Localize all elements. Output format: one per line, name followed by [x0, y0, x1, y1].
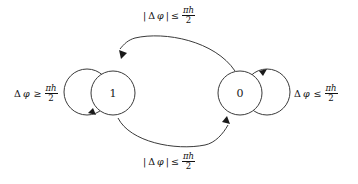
- state-node-1[interactable]: 1: [91, 71, 135, 115]
- fraction: πh 2: [182, 152, 195, 171]
- fraction-denominator: 2: [327, 94, 334, 103]
- state-0-label: 0: [237, 87, 244, 100]
- phi-symbol: φ: [303, 89, 310, 99]
- edge-1-to-0-arc: [118, 118, 228, 147]
- delta-symbol: Δ: [14, 89, 21, 99]
- edge-0-to-1-arc: [120, 36, 235, 71]
- self-loop-0-label: Δφ ≤ πh 2: [292, 84, 339, 103]
- state-1-label: 1: [110, 87, 117, 100]
- edge-1-to-0-label: |Δφ| ≤ πh 2: [143, 152, 196, 171]
- fraction-numerator: πh: [182, 6, 195, 15]
- self-loop-1-arrowhead: [88, 108, 96, 115]
- relation-symbol: ≤: [171, 11, 179, 21]
- phi-symbol: φ: [157, 157, 164, 167]
- fraction-numerator: πh: [45, 84, 58, 93]
- fraction: πh 2: [182, 6, 195, 25]
- self-loop-1-label: Δφ ≥ πh 2: [12, 84, 59, 103]
- fraction: πh 2: [45, 84, 58, 103]
- phi-symbol: φ: [23, 89, 30, 99]
- abs-close-bar: |: [166, 11, 169, 21]
- delta-symbol: Δ: [148, 157, 155, 167]
- relation-symbol: ≥: [34, 89, 42, 99]
- fraction-numerator: πh: [325, 84, 338, 93]
- edge-1-to-0-arrowhead: [222, 116, 230, 124]
- delta-symbol: Δ: [148, 11, 155, 21]
- fraction-denominator: 2: [185, 162, 192, 171]
- fraction-denominator: 2: [185, 16, 192, 25]
- abs-open-bar: |: [143, 157, 146, 167]
- phi-symbol: φ: [157, 11, 164, 21]
- relation-symbol: ≤: [314, 89, 322, 99]
- delta-symbol: Δ: [294, 89, 301, 99]
- abs-open-bar: |: [143, 11, 146, 21]
- fraction-denominator: 2: [47, 94, 54, 103]
- edge-0-to-1-label: |Δφ| ≤ πh 2: [143, 6, 196, 25]
- abs-close-bar: |: [166, 157, 169, 167]
- fraction-numerator: πh: [182, 152, 195, 161]
- edge-0-to-1-arrowhead: [119, 50, 127, 59]
- fraction: πh 2: [325, 84, 338, 103]
- state-node-0[interactable]: 0: [218, 71, 262, 115]
- relation-symbol: ≤: [171, 157, 179, 167]
